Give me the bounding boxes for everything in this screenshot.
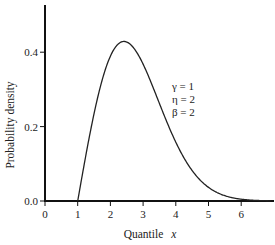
x-tick-label: 2 bbox=[108, 208, 114, 220]
annotation-beta: β = 2 bbox=[172, 106, 195, 118]
x-tick-label: 4 bbox=[173, 208, 179, 220]
density-curve bbox=[78, 41, 271, 201]
x-tick-label: 3 bbox=[140, 208, 146, 220]
x-axis-label-text: Quantile bbox=[124, 228, 164, 240]
annotation-gamma: γ = 1 bbox=[171, 80, 194, 92]
x-axis-label-var: x bbox=[170, 228, 177, 240]
x-tick-label: 5 bbox=[206, 208, 212, 220]
y-tick-label: 0.2 bbox=[24, 121, 38, 133]
x-axis-label: Quantile x bbox=[124, 228, 177, 240]
y-ticks: 0.00.20.4 bbox=[24, 46, 45, 207]
annotation-eta: η = 2 bbox=[172, 93, 195, 105]
y-tick-label: 0.0 bbox=[24, 195, 38, 207]
x-ticks: 0123456 bbox=[42, 201, 244, 220]
x-tick-label: 6 bbox=[238, 208, 244, 220]
x-tick-label: 0 bbox=[42, 208, 48, 220]
x-tick-label: 1 bbox=[75, 208, 81, 220]
y-axis-label: Probability density bbox=[4, 81, 17, 168]
plot-area: 0123456 0.00.20.4 γ = 1 η = 2 β = 2 Prob… bbox=[0, 0, 275, 245]
y-tick-label: 0.4 bbox=[24, 46, 38, 58]
chart: 0123456 0.00.20.4 γ = 1 η = 2 β = 2 Prob… bbox=[0, 0, 275, 245]
